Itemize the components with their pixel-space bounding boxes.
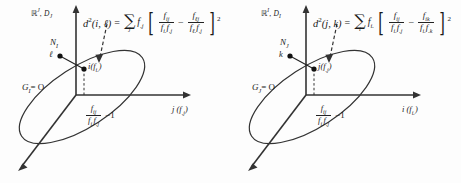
axis-fraction-numerator: fij <box>319 104 329 115</box>
distance-formula: d2(i, ℓ) = ∑ j f.j [ fij fi.f.j − fℓj fℓ… <box>83 11 221 34</box>
formula-lhs: d2(i, ℓ) <box>83 16 111 29</box>
formula-equals: = <box>345 17 351 28</box>
axis-fraction-label: fij fi.f.j −1 <box>314 104 345 127</box>
depth-axis-arrowhead <box>248 164 258 172</box>
space-label: ℝI, DI <box>261 8 281 20</box>
formula-bracket-close-group: ] 2 <box>207 14 221 32</box>
formula-bracket-open: [ <box>378 14 384 32</box>
point-marker-b <box>311 66 316 71</box>
formula-summation: ∑ j <box>124 14 135 32</box>
horizontal-axis-label: i (fi.) <box>402 105 418 116</box>
formula-bracket-close-group: ] 2 <box>437 14 451 32</box>
axis-fraction: fij fi.f.j <box>316 104 331 127</box>
formula-equals: = <box>114 17 120 28</box>
formula-exponent: 2 <box>217 15 221 23</box>
space-label: ℝJ, DJ <box>31 8 52 20</box>
point-marker-b <box>81 66 86 71</box>
formula-lhs: d2(j, k) <box>313 16 342 29</box>
cloud-label: ΝI <box>50 38 58 49</box>
depth-axis-line <box>22 95 76 166</box>
panel-right: ℝI, DI ΝJ GJ= O k j(f.j) i (fi.) fij fi.… <box>230 0 461 183</box>
cloud-label: ΝJ <box>280 38 289 49</box>
space-exponent: I <box>267 7 269 13</box>
formula-term-1: fij fi.f.j <box>389 11 404 34</box>
formula-term-1: fij fi.f.j <box>159 11 174 34</box>
formula-bracket-open: [ <box>148 14 154 32</box>
point-marker-a <box>57 53 62 58</box>
axis-fraction-minus-one: −1 <box>335 110 345 120</box>
formula-summation: ∑ i <box>354 14 365 32</box>
space-metric-sub: J <box>50 13 53 19</box>
formula-minus: − <box>408 17 414 28</box>
point-label-b: i(fi.) <box>88 62 102 73</box>
space-metric-sub: I <box>279 13 281 19</box>
segment-l-to-i <box>60 56 84 69</box>
vertical-axis-arrowhead <box>73 5 80 13</box>
point-label-a: ℓ <box>49 50 53 59</box>
axis-fraction-numerator: fij <box>89 104 99 115</box>
distance-formula: d2(j, k) = ∑ i fi. [ fij fi.f.j − fik fi… <box>313 11 451 34</box>
formula-minus: − <box>178 17 184 28</box>
point-marker-a <box>287 53 292 58</box>
horizontal-axis-arrowhead <box>413 92 421 99</box>
axis-fraction-denominator: fi.f.j <box>86 115 101 127</box>
cloud-ellipse <box>235 33 388 162</box>
depth-axis-arrowhead <box>18 164 28 172</box>
formula-coefficient: fi. <box>368 16 374 29</box>
horizontal-axis-arrowhead <box>183 92 191 99</box>
horizontal-axis-label: j (f.j) <box>172 105 188 116</box>
vertical-axis-arrowhead <box>303 5 310 13</box>
space-exponent: J <box>37 7 40 13</box>
segment-k-to-j <box>290 56 314 69</box>
formula-term-2: fℓj fℓ.f.j <box>188 11 204 34</box>
formula-coefficient: f.j <box>137 16 143 29</box>
axis-fraction: fij fi.f.j <box>86 104 101 127</box>
axis-fraction-label: fij fi.f.j −1 <box>84 104 115 127</box>
cloud-ellipse <box>5 33 158 162</box>
origin-label: GJ= O <box>252 83 275 94</box>
axis-fraction-denominator: fi.f.j <box>316 115 331 127</box>
panel-left: ℝJ, DJ ΝI GI= O ℓ i(fi.) j (f.j) fij fi.… <box>0 0 231 183</box>
chi-square-distance-diagram: ℝJ, DJ ΝI GI= O ℓ i(fi.) j (f.j) fij fi.… <box>0 0 461 183</box>
point-label-a: k <box>279 50 283 59</box>
formula-bracket-close: ] <box>209 14 215 32</box>
formula-term-2: fik fi.f.k <box>418 11 434 34</box>
axis-fraction-minus-one: −1 <box>105 110 115 120</box>
depth-axis-line <box>252 95 306 166</box>
origin-label: GI= O <box>22 83 44 94</box>
formula-bracket-close: ] <box>440 14 446 32</box>
formula-exponent: 2 <box>448 15 452 23</box>
point-label-b: j(f.j) <box>318 62 332 73</box>
